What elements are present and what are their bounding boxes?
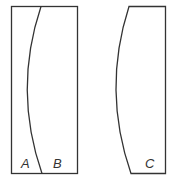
label-b: B [53, 156, 62, 171]
label-a: A [20, 156, 30, 171]
left-rectangle [12, 7, 78, 174]
label-c: C [145, 156, 155, 171]
diagram: A B C [0, 0, 171, 185]
panel-right: C [116, 7, 166, 174]
panel-left: A B [12, 7, 78, 174]
dividing-curve [27, 7, 42, 174]
shape-c [116, 7, 166, 174]
